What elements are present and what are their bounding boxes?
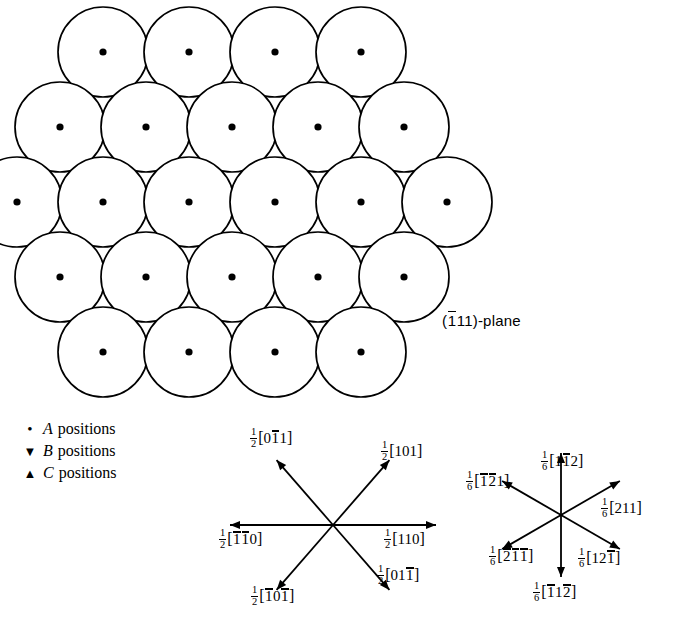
vector-half-1bar0-1bar-label: 12[101] [251, 585, 294, 607]
vector-sixth-1bar12bar-shaft [561, 515, 620, 549]
vector-sixth-211-label: 16[211] [601, 497, 642, 519]
vector-sixth-121bar-head [557, 567, 565, 577]
vector-half-110-head [426, 521, 436, 529]
vector-half-0bar11-label: 12[011] [250, 427, 292, 449]
vector-sixth-121bar-label: 16[121] [578, 547, 620, 569]
vector-sixth-11bar2-label: 16[112] [541, 450, 583, 472]
vector-sixth-1bar12bar-label: 16[112] [533, 581, 576, 603]
vector-sixth-211-head [609, 481, 620, 489]
burgers-vector-arrows [0, 0, 674, 628]
vector-half-110-label: 12[110] [384, 528, 425, 550]
vector-half-101-shaft [333, 460, 389, 525]
vector-half-1bar0-1bar-shaft [277, 525, 333, 590]
vector-half-1bar1bar0-label: 12[110] [219, 528, 262, 550]
vector-sixth-1bar2bar1-label: 16[121] [466, 470, 509, 492]
figure-canvas: (111)-plane •Apositions▼Bpositions▲Cposi… [0, 0, 674, 628]
vector-half-01bar1-label: 12[011] [377, 564, 419, 586]
vector-sixth-2bar1bar1bar-shaft [502, 515, 561, 549]
vector-half-0bar11-shaft [277, 460, 333, 525]
vector-sixth-1bar2bar1-shaft [502, 481, 561, 515]
vector-half-101-label: 12[101] [381, 440, 422, 462]
vector-sixth-2bar1bar1bar-label: 16[211] [489, 545, 533, 567]
